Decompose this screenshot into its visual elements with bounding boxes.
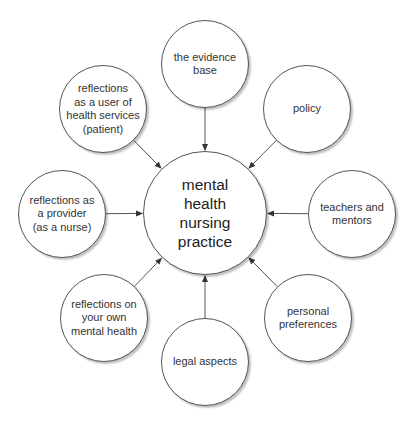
node-label: the evidence base xyxy=(174,51,236,78)
arrow-policy-to-center xyxy=(249,140,276,168)
node-label: policy xyxy=(293,102,321,116)
arrow-reflections-own-mental-health-to-center xyxy=(135,258,162,286)
node-reflections-provider: reflections as a provider (as a nurse) xyxy=(18,170,106,258)
node-label: reflections as a provider (as a nurse) xyxy=(30,194,95,235)
arrow-reflections-user-to-center xyxy=(134,140,161,168)
center-node-label: mental health nursing practice xyxy=(178,175,232,251)
node-reflections-user: reflections as a user of health services… xyxy=(59,65,147,153)
node-label: reflections as a user of health services… xyxy=(66,82,139,136)
node-teachers-mentors: teachers and mentors xyxy=(308,170,396,258)
arrow-personal-preferences-to-center xyxy=(249,258,277,287)
node-label: personal preferences xyxy=(279,305,337,332)
node-label: legal aspects xyxy=(173,355,237,369)
node-label: reflections on your own mental health xyxy=(71,298,137,339)
node-policy: policy xyxy=(263,65,351,153)
node-label: teachers and mentors xyxy=(320,201,384,228)
node-personal-preferences: personal preferences xyxy=(264,274,352,362)
center-node-mental-health-nursing-practice: mental health nursing practice xyxy=(143,151,267,275)
node-reflections-own-mental-health: reflections on your own mental health xyxy=(60,274,148,362)
node-legal-aspects: legal aspects xyxy=(161,318,249,406)
node-evidence-base: the evidence base xyxy=(161,20,249,108)
